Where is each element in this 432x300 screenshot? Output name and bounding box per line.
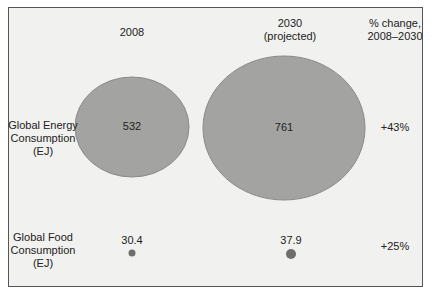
header-2030-projected: (projected) xyxy=(260,30,320,43)
food-label: Consumption xyxy=(8,244,78,257)
food-2008-dot xyxy=(129,250,136,257)
energy-label: (EJ) xyxy=(8,145,78,158)
food-label: Global Food xyxy=(8,231,78,244)
energy-2008-value: 532 xyxy=(112,120,152,133)
food-2030-value: 37.9 xyxy=(271,234,311,247)
energy-change: +43% xyxy=(370,121,420,134)
header-change-range: 2008–2030 xyxy=(360,30,430,43)
food-2008-value: 30.4 xyxy=(112,234,152,247)
energy-label: Consumption xyxy=(8,132,78,145)
header-2008: 2008 xyxy=(112,26,152,39)
header-change: % change, xyxy=(360,17,430,30)
food-2030-dot xyxy=(286,249,296,259)
header-2030: 2030 xyxy=(260,17,320,30)
food-change: +25% xyxy=(370,240,420,253)
energy-label: Global Energy xyxy=(8,119,78,132)
food-label: (EJ) xyxy=(8,257,78,270)
energy-2030-value: 761 xyxy=(264,121,304,134)
